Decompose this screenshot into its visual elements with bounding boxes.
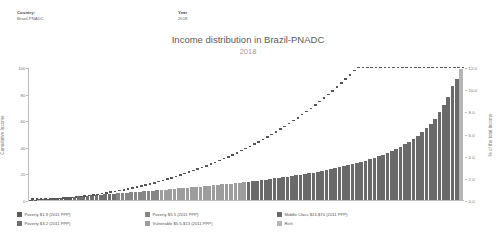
page-subtitle: 2018 — [0, 46, 496, 57]
filter-bar: Country: Brazil-PNADC Year 2018 — [0, 0, 496, 30]
cumulative-marker — [53, 198, 56, 200]
cumulative-marker — [114, 191, 117, 193]
cumulative-marker — [336, 86, 339, 88]
cumulative-marker — [314, 104, 317, 106]
cumulative-marker — [127, 188, 130, 190]
y-tick-left: 60 — [21, 119, 26, 124]
cumulative-marker — [414, 67, 417, 69]
cumulative-marker — [183, 173, 186, 175]
cumulative-marker — [83, 195, 86, 197]
legend-swatch — [145, 221, 150, 226]
legend-swatch — [17, 221, 22, 226]
cumulative-marker — [362, 67, 365, 69]
cumulative-marker — [131, 187, 134, 189]
cumulative-marker — [462, 67, 465, 69]
cumulative-marker — [205, 165, 208, 167]
legend-label: Poverty $5.5 (2011 PPP) — [153, 212, 199, 217]
cumulative-marker — [440, 67, 443, 69]
cumulative-marker — [457, 67, 460, 69]
cumulative-marker — [449, 67, 452, 69]
cumulative-marker — [353, 70, 356, 72]
cumulative-marker — [157, 181, 160, 183]
cumulative-marker — [249, 146, 252, 148]
cumulative-marker — [175, 176, 178, 178]
cumulative-marker — [266, 136, 269, 138]
filter-country[interactable]: Country: Brazil-PNADC — [17, 10, 44, 22]
cumulative-marker — [423, 67, 426, 69]
legend-label: Rich — [285, 221, 293, 226]
filter-country-value: Brazil-PNADC — [17, 16, 44, 22]
cumulative-marker — [31, 198, 34, 200]
cumulative-marker — [310, 108, 313, 110]
y-axis-left-label: Cumulative Income — [0, 115, 5, 154]
filter-year[interactable]: Year 2018 — [178, 10, 187, 22]
legend-item[interactable]: Rich — [277, 221, 293, 226]
y-tick-left: 40 — [21, 145, 26, 150]
legend-item[interactable]: Poverty $5.5 (2011 PPP) — [145, 212, 199, 217]
y-tick-right: 10.0 — [469, 88, 478, 93]
chart-legend: Poverty $1.9 (2011 PPP)Poverty $3.2 (201… — [0, 212, 496, 242]
y-tick-mark-right — [465, 135, 467, 136]
cumulative-marker — [283, 126, 286, 128]
y-tick-right: 8.0 — [469, 110, 475, 115]
cumulative-marker — [357, 67, 360, 69]
cumulative-marker — [166, 178, 169, 180]
cumulative-marker — [292, 120, 295, 122]
cumulative-marker — [57, 198, 60, 200]
cumulative-marker — [70, 197, 73, 199]
y-tick-left: 100 — [18, 66, 25, 71]
legend-item[interactable]: Poverty $3.2 (2011 PPP) — [17, 221, 71, 226]
cumulative-marker — [331, 90, 334, 92]
legend-item[interactable]: Middle Class $13-$70 (2011 PPP) — [277, 212, 348, 217]
y-tick-mark-right — [465, 68, 467, 69]
legend-label: Poverty $1.9 (2011 PPP) — [25, 212, 71, 217]
cumulative-marker — [379, 67, 382, 69]
cumulative-marker — [297, 117, 300, 119]
cumulative-marker — [92, 194, 95, 196]
cumulative-marker — [162, 180, 165, 182]
cumulative-marker — [75, 196, 78, 198]
cumulative-marker — [244, 148, 247, 150]
cumulative-marker — [140, 185, 143, 187]
cumulative-marker — [427, 67, 430, 69]
y-tick-mark-right — [465, 90, 467, 91]
cumulative-marker — [79, 196, 82, 198]
cumulative-marker — [375, 67, 378, 69]
cumulative-marker — [388, 67, 391, 69]
cumulative-marker — [223, 158, 226, 160]
cumulative-marker — [101, 193, 104, 195]
cumulative-marker — [349, 74, 352, 76]
cumulative-marker — [201, 167, 204, 169]
y-tick-left: 20 — [21, 172, 26, 177]
legend-item[interactable]: Poverty $1.9 (2011 PPP) — [17, 212, 71, 217]
cumulative-marker — [288, 123, 291, 125]
cumulative-marker — [44, 198, 47, 200]
cumulative-marker — [188, 171, 191, 173]
cumulative-marker — [105, 192, 108, 194]
cumulative-marker — [262, 139, 265, 141]
legend-swatch — [17, 212, 22, 217]
cumulative-marker — [214, 162, 217, 164]
cumulative-marker — [96, 194, 99, 196]
cumulative-marker — [123, 189, 126, 191]
legend-item[interactable]: Vulnerable $5.5-$13 (2011 PPP) — [145, 221, 213, 226]
chart-area: Cumulative Income 020406080100 % of the … — [0, 60, 496, 210]
cumulative-marker — [405, 67, 408, 69]
y-tick-right: 12.0 — [469, 66, 478, 71]
legend-label: Vulnerable $5.5-$13 (2011 PPP) — [153, 221, 213, 226]
legend-swatch — [145, 212, 150, 217]
cumulative-marker — [231, 154, 234, 156]
legend-label: Middle Class $13-$70 (2011 PPP) — [285, 212, 348, 217]
y-tick-mark-right — [465, 157, 467, 158]
cumulative-marker — [410, 67, 413, 69]
cumulative-marker — [210, 163, 213, 165]
cumulative-marker — [270, 134, 273, 136]
cumulative-marker — [227, 156, 230, 158]
cumulative-marker — [344, 78, 347, 80]
cumulative-marker — [196, 168, 199, 170]
y-axis-right: % of the total income 0.02.04.06.08.010.… — [464, 60, 496, 210]
cumulative-marker — [109, 191, 112, 193]
cumulative-marker — [431, 67, 434, 69]
cumulative-marker — [153, 182, 156, 184]
y-tick-right: 6.0 — [469, 132, 475, 137]
